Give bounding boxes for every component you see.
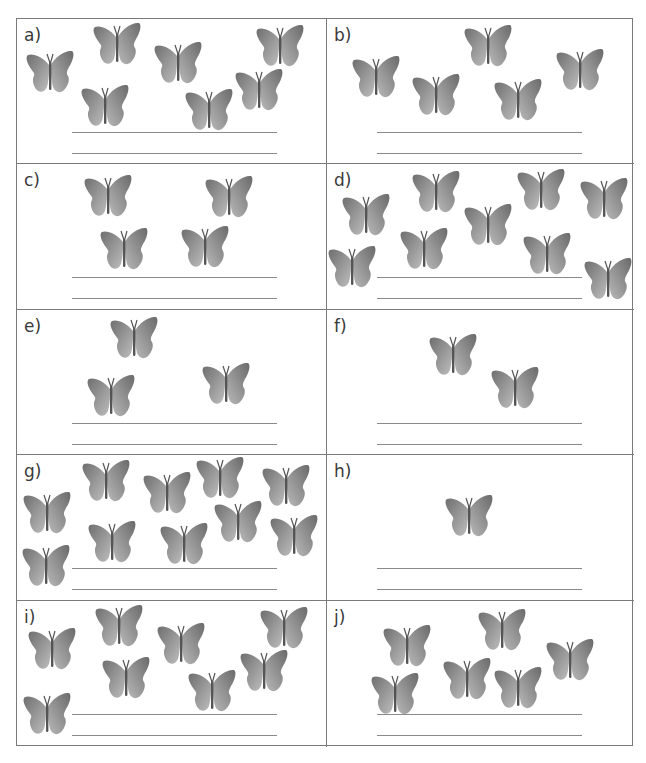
butterfly-icon [351, 54, 401, 100]
exercise-cell-a: a) [17, 19, 327, 164]
exercise-label: f) [334, 316, 347, 336]
answer-line-2[interactable] [377, 298, 582, 299]
butterfly-icon [411, 72, 461, 118]
exercise-cell-c: c) [17, 164, 327, 310]
butterfly-icon [239, 648, 289, 694]
butterfly-icon [180, 224, 230, 270]
exercise-label: i) [24, 607, 35, 627]
answer-line-2[interactable] [72, 735, 277, 736]
butterfly-icon [25, 49, 75, 95]
butterfly-icon [142, 470, 192, 516]
butterfly-icon [109, 315, 159, 361]
butterfly-icon [579, 176, 629, 222]
butterfly-icon [463, 23, 513, 69]
butterfly-icon [87, 519, 137, 565]
butterfly-icon [545, 637, 595, 683]
butterfly-icon [411, 169, 461, 215]
butterfly-icon [555, 47, 605, 93]
butterfly-icon [516, 167, 566, 213]
answer-line-1[interactable] [377, 277, 582, 278]
exercise-label: e) [24, 316, 41, 336]
answer-line-1[interactable] [377, 714, 582, 715]
butterfly-icon [201, 361, 251, 407]
butterfly-icon [522, 231, 572, 277]
answer-line-1[interactable] [72, 132, 277, 133]
butterfly-icon [382, 623, 432, 669]
butterfly-icon [259, 605, 309, 651]
exercise-cell-g: g) [17, 455, 327, 601]
answer-line-2[interactable] [377, 735, 582, 736]
answer-line-2[interactable] [72, 298, 277, 299]
butterfly-icon [370, 671, 420, 717]
butterfly-icon [159, 521, 209, 567]
butterfly-icon [234, 67, 284, 113]
butterfly-icon [195, 455, 245, 501]
answer-line-1[interactable] [377, 568, 582, 569]
exercise-cell-i: i) [17, 601, 327, 747]
exercise-cell-b: b) [327, 19, 634, 164]
butterfly-icon [204, 174, 254, 220]
butterfly-icon [86, 373, 136, 419]
butterfly-icon [27, 626, 77, 672]
butterfly-icon [341, 192, 391, 238]
answer-line-1[interactable] [72, 568, 277, 569]
butterfly-icon [327, 244, 377, 290]
butterfly-icon [153, 40, 203, 86]
answer-line-2[interactable] [377, 153, 582, 154]
answer-line-2[interactable] [72, 153, 277, 154]
butterfly-icon [187, 668, 237, 714]
butterfly-icon [92, 21, 142, 67]
answer-line-1[interactable] [377, 132, 582, 133]
butterfly-icon [493, 77, 543, 123]
exercise-label: b) [334, 25, 351, 45]
butterfly-icon [80, 83, 130, 129]
butterfly-icon [477, 607, 527, 653]
worksheet-grid: a)b)c)d)e)f)g)h)i)j) [16, 18, 633, 746]
answer-line-2[interactable] [72, 444, 277, 445]
butterfly-icon [99, 226, 149, 272]
exercise-label: a) [24, 25, 41, 45]
exercise-label: g) [24, 461, 41, 481]
butterfly-icon [428, 332, 478, 378]
butterfly-icon [21, 543, 71, 589]
butterfly-icon [101, 655, 151, 701]
answer-line-1[interactable] [72, 277, 277, 278]
butterfly-icon [156, 621, 206, 667]
butterfly-icon [493, 665, 543, 711]
butterfly-icon [463, 202, 513, 248]
butterfly-icon [490, 365, 540, 411]
answer-line-2[interactable] [377, 589, 582, 590]
answer-line-1[interactable] [72, 714, 277, 715]
butterfly-icon [83, 173, 133, 219]
exercise-label: c) [24, 170, 40, 190]
butterfly-icon [444, 493, 494, 539]
exercise-label: j) [334, 607, 345, 627]
answer-line-2[interactable] [72, 589, 277, 590]
butterfly-icon [81, 458, 131, 504]
exercise-label: h) [334, 461, 351, 481]
answer-line-1[interactable] [377, 423, 582, 424]
exercise-cell-h: h) [327, 455, 634, 601]
exercise-cell-d: d) [327, 164, 634, 310]
answer-line-1[interactable] [72, 423, 277, 424]
exercise-cell-e: e) [17, 310, 327, 455]
exercise-cell-f: f) [327, 310, 634, 455]
butterfly-icon [94, 603, 144, 649]
butterfly-icon [22, 691, 72, 737]
butterfly-icon [22, 490, 72, 536]
butterfly-icon [213, 499, 263, 545]
answer-line-2[interactable] [377, 444, 582, 445]
butterfly-icon [269, 513, 319, 559]
butterfly-icon [261, 463, 311, 509]
exercise-label: d) [334, 170, 351, 190]
exercise-cell-j: j) [327, 601, 634, 747]
butterfly-icon [583, 256, 633, 302]
butterfly-icon [255, 23, 305, 69]
butterfly-icon [399, 226, 449, 272]
butterfly-icon [442, 656, 492, 702]
butterfly-icon [184, 87, 234, 133]
